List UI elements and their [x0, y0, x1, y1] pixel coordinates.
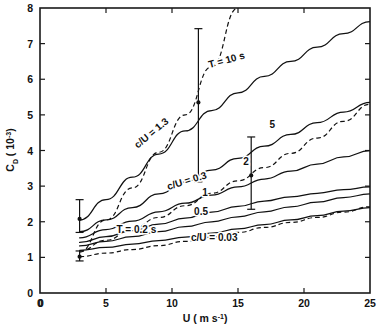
- x-tick-label: 20: [298, 297, 310, 309]
- y-axis-tick-labels: 012345678: [27, 2, 33, 299]
- curve-t-5-s: [80, 102, 370, 231]
- curve-label-t-0-2-s: T = 0.2 s: [116, 224, 156, 235]
- y-tick-label: 4: [27, 145, 33, 157]
- x-tick-label: 25: [364, 297, 376, 309]
- y-tick-label: 8: [27, 2, 33, 14]
- curve-label-t-10-s: T = 10 s: [207, 50, 246, 70]
- y-tick-label: 7: [27, 38, 33, 50]
- errorbar-u3-upper: [76, 200, 84, 233]
- y-tick-label: 5: [27, 109, 33, 121]
- figure-container: 0510152025 012345678 T = 10 sT = 10 s552…: [0, 0, 387, 328]
- y-tick-label: 3: [27, 180, 33, 192]
- y-tick-label: 6: [27, 73, 33, 85]
- curve-label-t-1-s: 1: [202, 187, 208, 198]
- curve-label-t-0-5-s: 0.5: [194, 206, 208, 217]
- drag-coefficient-chart: 0510152025 012345678 T = 10 sT = 10 s552…: [0, 0, 387, 328]
- x-tick-label: 15: [232, 297, 244, 309]
- y-axis-title: CD ( 10-3): [4, 128, 19, 171]
- curve-label-c-u-1-3: c/U = 1.3: [132, 115, 171, 150]
- y-tick-label: 1: [27, 251, 33, 263]
- x-axis-tick-labels: 0510152025: [37, 297, 376, 309]
- curve-label-t-5-s: 5: [270, 119, 276, 130]
- plot-frame: [40, 8, 370, 293]
- errorbar-u12: [194, 29, 202, 182]
- errorbar-u3-lower: [76, 251, 84, 261]
- y-axis-ticks: [40, 44, 370, 258]
- y-tick-label: 0: [27, 287, 33, 299]
- x-tick-label: 10: [166, 297, 178, 309]
- x-axis-title: U ( m s-1): [183, 312, 228, 324]
- x-axis-ticks: [106, 8, 304, 293]
- curve-label-c-u-0-03: c/U = 0.03: [191, 232, 238, 243]
- x-tick-label: 5: [103, 297, 109, 309]
- curve-label-t-2-s: 2: [243, 156, 249, 167]
- errorbar-u16: [247, 137, 255, 209]
- data-curves: [80, 8, 370, 257]
- y-tick-label: 2: [27, 216, 33, 228]
- origin-label-duplicate: 0: [38, 297, 44, 309]
